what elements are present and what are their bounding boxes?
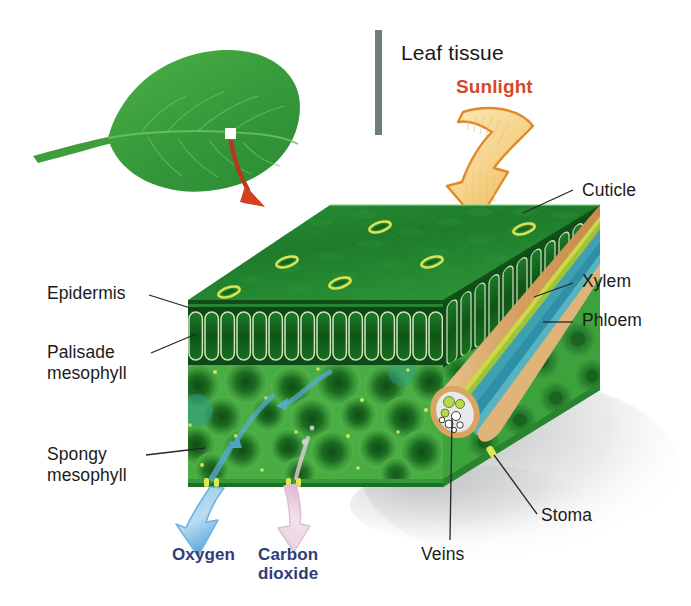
leaf-front-face	[175, 300, 451, 491]
label-carbon-dioxide: Carbon dioxide	[258, 545, 318, 583]
whole-leaf-illustration	[33, 50, 300, 192]
page-title: Leaf tissue	[401, 42, 504, 63]
label-epidermis: Epidermis	[47, 283, 126, 304]
carbon-dioxide-arrow	[278, 484, 310, 552]
leaf-tissue-diagram: Leaf tissue Sunlight Cuticle Xylem Phloe…	[0, 0, 691, 606]
label-xylem: Xylem	[582, 271, 631, 292]
label-veins: Veins	[421, 544, 464, 565]
label-stoma: Stoma	[541, 505, 592, 526]
label-spongy-mesophyll: Spongy mesophyll	[47, 444, 127, 486]
label-palisade-mesophyll: Palisade mesophyll	[47, 342, 127, 384]
sunlight-label: Sunlight	[456, 76, 533, 97]
label-oxygen: Oxygen	[172, 545, 235, 564]
title-rule	[375, 30, 382, 135]
label-phloem: Phloem	[582, 310, 642, 331]
lower-epidermis	[188, 478, 443, 487]
palisade-mesophyll-front	[188, 307, 443, 365]
cuticle-layer	[188, 300, 443, 307]
label-cuticle: Cuticle	[582, 180, 636, 201]
